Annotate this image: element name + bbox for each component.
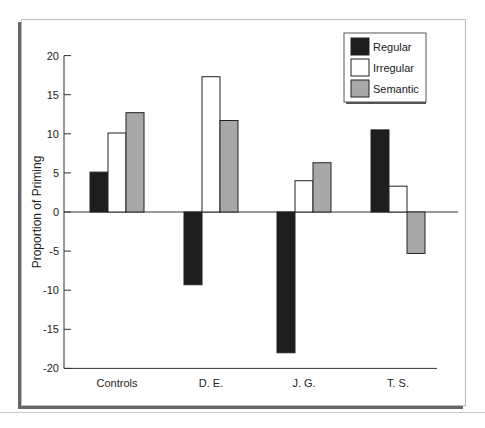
legend-label: Semantic [373,83,419,95]
y-tick-label: 5 [53,167,59,179]
y-tick-label: 0 [53,206,59,218]
bar-regular [90,172,108,212]
legend: RegularIrregularSemantic [344,33,426,104]
y-tick-label: -20 [43,362,59,374]
bar-regular [371,130,389,212]
y-axis-label: Proportion of Priming [30,156,44,269]
y-tick-label: 15 [47,89,59,101]
x-tick-label: T. S. [387,377,409,389]
bar-semantic [220,121,238,212]
bar-semantic [313,163,331,212]
x-tick-label: D. E. [199,377,223,389]
y-tick-label: -10 [43,284,59,296]
x-tick-label: Controls [97,377,138,389]
y-tick-label: -5 [49,245,59,257]
y-tick-label: -15 [43,323,59,335]
bar-regular [184,212,202,285]
legend-swatch-irregular [351,59,369,76]
bar-semantic [126,113,144,212]
y-tick-label: 20 [47,50,59,62]
x-tick-label: J. G. [292,377,315,389]
bar-semantic [407,212,425,253]
bar-irregular [389,186,407,212]
bar-chart: 20151050-5-10-15-20 ControlsD. E.J. G.T.… [0,0,485,428]
bar-regular [277,212,295,353]
legend-label: Irregular [373,62,414,74]
bar-irregular [202,77,220,212]
bar-irregular [108,133,126,212]
x-axis: ControlsD. E.J. G.T. S. [97,377,409,389]
y-tick-label: 10 [47,128,59,140]
legend-swatch-regular [351,38,369,55]
legend-label: Regular [373,41,412,53]
bars [90,77,425,353]
bar-irregular [295,181,313,212]
legend-swatch-semantic [351,80,369,97]
